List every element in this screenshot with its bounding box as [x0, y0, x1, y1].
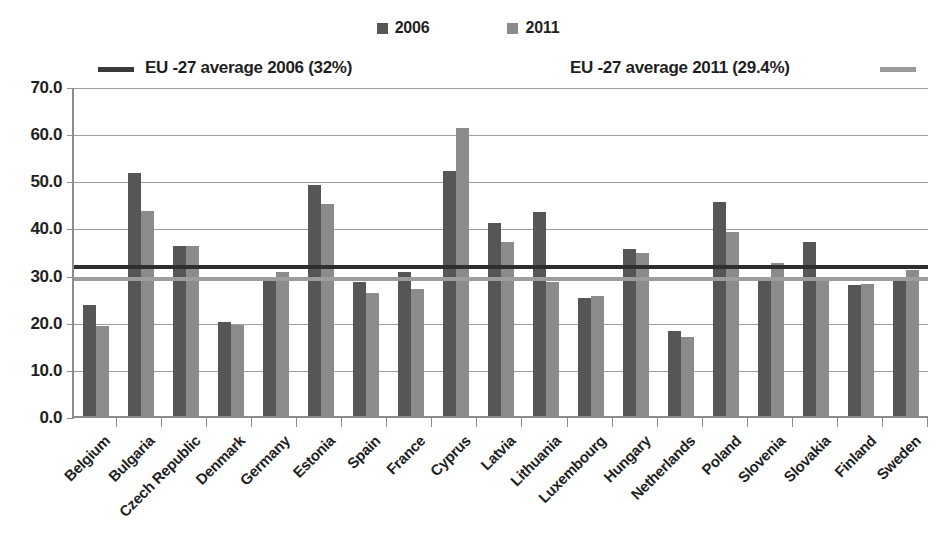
- x-axis-tick-cell: [387, 418, 432, 427]
- legend-item-2006: 2006: [377, 19, 430, 37]
- bar-2011: [321, 204, 334, 416]
- bar-2011: [186, 246, 199, 416]
- bar-2006: [263, 277, 276, 416]
- bar-group: [524, 88, 569, 416]
- bars-layer: [74, 88, 928, 416]
- bar-group: [299, 88, 344, 416]
- bar-group: [389, 88, 434, 416]
- bar-2011: [411, 289, 424, 416]
- bar-2011: [861, 284, 874, 416]
- y-axis-tick-mark: [67, 371, 74, 372]
- x-axis-tick-cell: [522, 418, 567, 427]
- x-axis-tick-mark: [927, 418, 928, 427]
- bar-2011: [591, 296, 604, 416]
- legend-series: 2006 2011: [0, 14, 936, 42]
- y-axis-tick-mark: [67, 324, 74, 325]
- x-axis-tick-cell: [658, 418, 703, 427]
- x-axis-label-cell: Estonia: [297, 428, 342, 548]
- bar-2006: [533, 212, 546, 416]
- x-axis-label-cell: Cyprus: [432, 428, 477, 548]
- legend-item-2011: 2011: [507, 19, 559, 37]
- bar-group: [883, 88, 928, 416]
- bar-2006: [353, 282, 366, 416]
- x-axis-tick-cell: [342, 418, 387, 427]
- x-axis-category-label: France: [383, 432, 429, 478]
- x-axis-label-cell: Czech Republic: [162, 428, 207, 548]
- y-axis-tick-label: 0.0: [40, 408, 62, 428]
- bar-group: [164, 88, 209, 416]
- bar-group: [254, 88, 299, 416]
- legend-average-lines: EU -27 average 2006 (32%) EU -27 average…: [0, 58, 936, 84]
- x-axis-tick-cell: [793, 418, 838, 427]
- bar-2011: [141, 211, 154, 416]
- bar-2006: [893, 280, 906, 416]
- bar-group: [74, 88, 119, 416]
- bar-2011: [726, 232, 739, 416]
- bar-2011: [636, 253, 649, 416]
- legend-line-swatch-2011-icon: [880, 67, 916, 72]
- bar-group: [838, 88, 883, 416]
- x-axis-category-label: Belgium: [61, 432, 113, 484]
- bar-2006: [128, 173, 141, 416]
- x-axis-tick-cell: [252, 418, 297, 427]
- legend-label-average-2011: EU -27 average 2011 (29.4%): [570, 58, 790, 78]
- legend-label-2011: 2011: [525, 19, 559, 37]
- chart-plot-wrapper: 0.010.020.030.040.050.060.070.0 BelgiumB…: [0, 88, 936, 556]
- x-axis-category-label: Estonia: [289, 432, 338, 481]
- x-axis-tick-cell: [613, 418, 658, 427]
- bar-2011: [456, 128, 469, 416]
- x-axis-tick-cell: [297, 418, 342, 427]
- x-axis-tick-cell: [883, 418, 928, 427]
- bar-group: [658, 88, 703, 416]
- bar-2006: [443, 171, 456, 416]
- y-axis-tick-label: 20.0: [31, 314, 63, 334]
- x-axis-tick-cell: [838, 418, 883, 427]
- x-axis-tick-cell: [477, 418, 522, 427]
- bar-2006: [578, 298, 591, 416]
- bar-group: [793, 88, 838, 416]
- bar-group: [479, 88, 524, 416]
- legend-label-average-2006: EU -27 average 2006 (32%): [145, 58, 352, 78]
- bar-2011: [366, 293, 379, 416]
- x-axis-label-cell: Netherlands: [658, 428, 703, 548]
- bar-2006: [488, 223, 501, 416]
- bar-group: [119, 88, 164, 416]
- bar-2006: [713, 202, 726, 416]
- bar-group: [568, 88, 613, 416]
- y-axis-tick-mark: [67, 182, 74, 183]
- x-axis-tick-cell: [432, 418, 477, 427]
- x-axis-tick-cell: [72, 418, 117, 427]
- x-axis-category-label: Cyprus: [426, 432, 473, 479]
- bar-2011: [501, 242, 514, 416]
- x-axis-label-cell: Luxembourg: [568, 428, 613, 548]
- bar-2006: [848, 285, 861, 416]
- x-axis-label-cell: Slovakia: [793, 428, 838, 548]
- x-axis-tick-cell: [568, 418, 613, 427]
- bar-2011: [96, 326, 109, 416]
- x-axis-label-cell: Germany: [252, 428, 297, 548]
- x-axis-tick-cell: [703, 418, 748, 427]
- x-axis-label-cell: Sweden: [883, 428, 928, 548]
- x-axis-label-cell: France: [387, 428, 432, 548]
- y-axis-tick-mark: [67, 277, 74, 278]
- y-axis-tick-label: 60.0: [31, 125, 63, 145]
- bar-group: [613, 88, 658, 416]
- x-axis-label-cell: Poland: [703, 428, 748, 548]
- bar-2011: [906, 270, 919, 416]
- y-axis-tick-mark: [67, 88, 74, 89]
- y-axis-labels: 0.010.020.030.040.050.060.070.0: [0, 88, 68, 418]
- bar-group: [344, 88, 389, 416]
- bar-2006: [83, 305, 96, 416]
- bar-group: [209, 88, 254, 416]
- bar-2006: [173, 246, 186, 416]
- x-axis-label-cell: Belgium: [72, 428, 117, 548]
- bar-group: [748, 88, 793, 416]
- bar-2006: [758, 279, 771, 416]
- legend-swatch-2006-icon: [377, 23, 388, 34]
- bar-2011: [276, 272, 289, 416]
- x-axis-label-cell: Slovenia: [748, 428, 793, 548]
- y-axis-tick-label: 50.0: [31, 172, 63, 192]
- legend-label-2006: 2006: [395, 19, 430, 37]
- legend-line-swatch-2006-icon: [98, 67, 134, 72]
- bar-2006: [398, 272, 411, 416]
